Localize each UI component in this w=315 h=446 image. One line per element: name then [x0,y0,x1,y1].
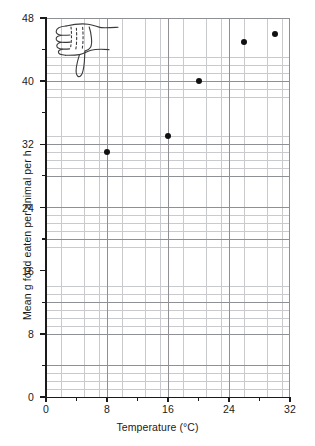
x-tick [45,397,46,402]
y-tick [42,238,46,239]
plot-border-right [289,18,290,397]
y-tick [40,80,45,81]
y-axis-title: Mean g food eaten per animal per h [8,0,24,400]
x-tick [198,397,199,401]
y-tick [40,17,45,18]
data-point [272,31,278,37]
x-tick [289,397,290,402]
x-tick-label: 24 [214,403,244,415]
x-tick-label: 32 [275,403,305,415]
y-tick [40,333,45,334]
x-tick [167,397,168,402]
y-tick [42,49,46,50]
x-tick [76,397,77,401]
y-tick [40,207,45,208]
y-tick-label: 8 [28,328,34,340]
y-tick [42,302,46,303]
data-point [241,39,247,45]
y-tick [40,144,45,145]
y-tick [40,396,45,397]
x-tick-label: 8 [92,403,122,415]
y-tick [42,112,46,113]
y-axis-line [45,17,47,398]
x-tick-label: 0 [31,403,61,415]
x-tick [259,397,260,401]
y-tick-label: 0 [28,391,34,403]
y-tick [42,175,46,176]
data-point [196,78,202,84]
plot-area-grid [46,18,290,397]
x-tick-label: 16 [153,403,183,415]
y-axis-title-text: Mean g food eaten per animal per h [21,150,33,320]
plot-border-top [46,18,290,19]
x-tick [137,397,138,401]
x-tick [106,397,107,402]
y-tick [42,365,46,366]
scatter-chart: 081624324048 08162432 Temperature (°C) M… [0,0,315,446]
y-tick [40,270,45,271]
x-tick [228,397,229,402]
x-axis-title: Temperature (°C) [0,421,315,433]
